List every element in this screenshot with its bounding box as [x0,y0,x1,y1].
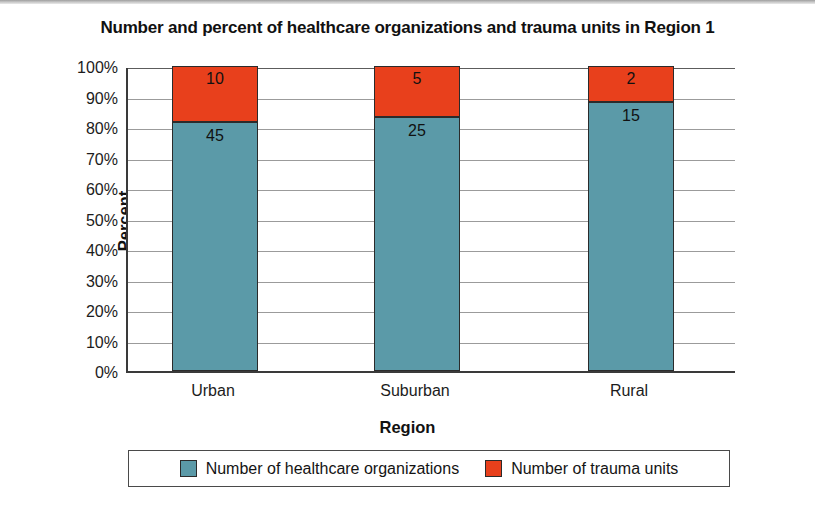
bar-segment-healthcare-organizations: 25 [374,117,460,371]
plot-wrapper: Percent 4510255152 [126,68,735,373]
x-axis-tick-label-urban: Urban [113,382,313,400]
y-axis-tick-label: 40% [48,242,118,260]
y-axis-tick-label: 100% [48,59,118,77]
y-axis-tick-label: 10% [48,334,118,352]
legend-label: Number of trauma units [511,460,678,478]
legend-swatch-icon [180,460,197,477]
bar-value-label: 5 [413,71,422,87]
x-axis-tick-label-suburban: Suburban [315,382,515,400]
chart-legend: Number of healthcare organizationsNumber… [128,450,730,487]
bar-group: 4510 [172,68,258,371]
y-axis-tick-label: 90% [48,90,118,108]
bar-value-label: 45 [206,128,224,144]
bar-value-label: 10 [206,71,224,87]
bar-value-label: 15 [622,108,640,124]
y-axis-tick-label: 30% [48,273,118,291]
scan-page-edge [0,0,815,4]
y-axis-tick-label: 50% [48,212,118,230]
y-axis-tick-label: 60% [48,181,118,199]
bar-value-label: 25 [408,123,426,139]
plot-area: 4510255152 [126,68,735,373]
legend-swatch-icon [485,460,502,477]
chart-title: Number and percent of healthcare organiz… [0,18,815,38]
y-axis-tick-label: 70% [48,151,118,169]
y-axis-tick-label: 0% [48,364,118,382]
bar-group: 152 [588,68,674,371]
bar-segment-healthcare-organizations: 45 [172,122,258,371]
legend-label: Number of healthcare organizations [206,460,459,478]
bar-value-label: 2 [627,71,636,87]
y-axis-tick-label: 80% [48,120,118,138]
bar-segment-trauma-units: 2 [588,66,674,102]
bar-segment-trauma-units: 10 [172,66,258,122]
bar-segment-trauma-units: 5 [374,66,460,117]
x-axis-tick-label-rural: Rural [529,382,729,400]
bar-group: 255 [374,68,460,371]
x-axis-title: Region [0,418,815,437]
bar-segment-healthcare-organizations: 15 [588,102,674,371]
y-axis-tick-label: 20% [48,303,118,321]
legend-item: Number of healthcare organizations [180,460,459,478]
legend-item: Number of trauma units [485,460,678,478]
